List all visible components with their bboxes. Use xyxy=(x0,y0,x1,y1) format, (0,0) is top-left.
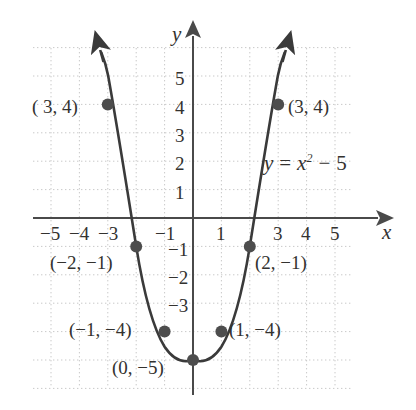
y-tick-2: 2 xyxy=(175,154,185,173)
y-tick-neg2: −2 xyxy=(168,268,188,287)
data-point xyxy=(272,98,284,110)
equation-equals: = xyxy=(279,151,291,175)
x-tick-1: 1 xyxy=(216,224,226,243)
equation-operator: − xyxy=(318,151,330,175)
point-label-3-4: (3, 4) xyxy=(288,97,329,116)
point-label-neg3-4: ( 3, 4) xyxy=(32,97,78,116)
y-axis-label: y xyxy=(172,24,181,45)
curve-arrow-right xyxy=(283,50,286,62)
x-tick-5: 5 xyxy=(330,224,340,243)
graph-figure: y x −5 −4 −3 −1 1 3 4 5 5 4 3 2 1 −1 −2 … xyxy=(0,0,416,410)
data-point xyxy=(159,326,171,338)
x-tick-3: 3 xyxy=(273,224,283,243)
equation-constant: 5 xyxy=(336,151,347,175)
point-label-1-neg4: (1, −4) xyxy=(229,320,281,339)
curve-arrow-left xyxy=(100,50,103,62)
data-point xyxy=(187,354,199,366)
plot-canvas xyxy=(0,0,416,410)
point-label-neg2-neg1: (−2, −1) xyxy=(50,253,113,272)
equation-lhs: y xyxy=(264,151,274,175)
x-tick-4: 4 xyxy=(301,224,311,243)
y-tick-5: 5 xyxy=(175,69,185,88)
x-tick-neg3: −3 xyxy=(98,224,118,243)
y-tick-neg1: −1 xyxy=(168,240,188,259)
point-label-0-neg5: (0, −5) xyxy=(112,358,164,377)
x-tick-neg4: −4 xyxy=(69,224,89,243)
point-label-2-neg1: (2, −1) xyxy=(255,253,307,272)
data-point xyxy=(102,98,114,110)
x-tick-neg5: −5 xyxy=(40,224,60,243)
point-label-neg1-neg4: (−1, −4) xyxy=(69,320,132,339)
y-tick-3: 3 xyxy=(175,126,185,145)
data-point xyxy=(215,326,227,338)
data-point xyxy=(244,240,256,252)
y-tick-neg3: −3 xyxy=(168,296,188,315)
x-axis-label: x xyxy=(382,222,391,243)
equation-base: x xyxy=(297,151,307,175)
data-point xyxy=(130,240,142,252)
y-tick-1: 1 xyxy=(175,183,185,202)
equation-label: y = x2 − 5 xyxy=(264,153,347,174)
y-tick-4: 4 xyxy=(175,98,185,117)
